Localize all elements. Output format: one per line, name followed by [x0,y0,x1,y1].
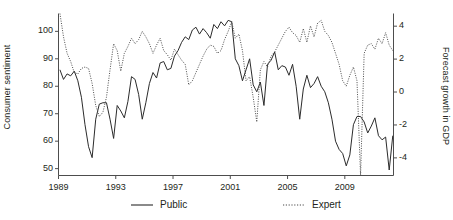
legend-item-public[interactable]: Public [131,198,187,212]
chart-figure: Consumer sentiment Forecast growth in GD… [0,0,453,220]
series-line-public [60,20,393,170]
line-solid-icon [131,200,153,210]
data-series-group [60,14,393,176]
plot-area [0,0,453,220]
legend-item-expert[interactable]: Expert [283,198,341,212]
axis-frame [59,14,394,176]
legend-label-public: Public [160,199,187,211]
y-axis-left-ticks [55,31,59,168]
line-dotted-icon [283,200,305,210]
chart-legend: Public Expert [0,196,453,220]
x-axis-ticks [59,176,345,180]
legend-label-expert: Expert [312,199,341,211]
series-line-expert [60,14,393,176]
y-axis-right-ticks [394,26,398,158]
